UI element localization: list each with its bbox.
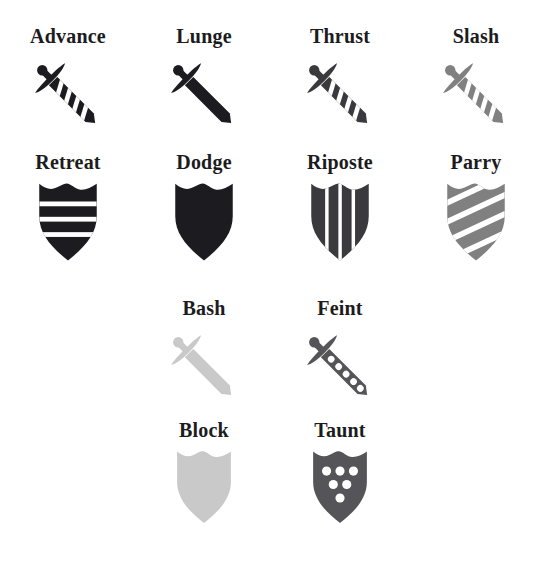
sword-solid-light-gray-icon bbox=[156, 322, 252, 414]
legend-item-label: Advance bbox=[30, 26, 106, 46]
sword-striped-dark-gray-icon bbox=[292, 50, 388, 142]
legend-item-block[interactable]: Block bbox=[136, 420, 272, 532]
legend-item-advance[interactable]: Advance bbox=[0, 26, 136, 142]
legend-row: Bash Feint bbox=[0, 298, 548, 414]
legend-row: Retreat Dodge Riposte Parry bbox=[0, 152, 548, 270]
legend-item-riposte[interactable]: Riposte bbox=[272, 152, 408, 270]
legend-item-slash[interactable]: Slash bbox=[408, 26, 544, 142]
shield-vertical-bars-dark-gray-icon bbox=[292, 178, 388, 270]
legend-row: Advance Lunge Thrust Slash bbox=[0, 26, 548, 142]
sword-striped-gray-icon bbox=[428, 50, 524, 142]
legend-row: Block Taunt bbox=[0, 420, 548, 532]
sword-dotted-mid-gray-icon bbox=[292, 322, 388, 414]
legend-item-bash[interactable]: Bash bbox=[136, 298, 272, 414]
legend-item-taunt[interactable]: Taunt bbox=[272, 420, 408, 532]
icon-legend-grid: Advance Lunge Thrust Slash Retreat Dodge… bbox=[0, 0, 548, 577]
legend-item-retreat[interactable]: Retreat bbox=[0, 152, 136, 270]
legend-item-thrust[interactable]: Thrust bbox=[272, 26, 408, 142]
legend-item-label: Parry bbox=[451, 152, 502, 172]
legend-item-label: Riposte bbox=[307, 152, 373, 172]
legend-item-label: Dodge bbox=[176, 152, 231, 172]
shield-horizontal-bars-black-icon bbox=[20, 178, 116, 270]
legend-item-label: Block bbox=[179, 420, 229, 440]
sword-striped-black-icon bbox=[20, 50, 116, 142]
legend-item-label: Taunt bbox=[314, 420, 365, 440]
shield-solid-light-gray-icon bbox=[156, 446, 252, 532]
legend-item-feint[interactable]: Feint bbox=[272, 298, 408, 414]
legend-item-parry[interactable]: Parry bbox=[408, 152, 544, 270]
legend-item-label: Thrust bbox=[310, 26, 370, 46]
legend-item-label: Lunge bbox=[176, 26, 231, 46]
legend-item-label: Retreat bbox=[35, 152, 100, 172]
shield-dotted-mid-gray-icon bbox=[292, 446, 388, 532]
legend-item-label: Bash bbox=[182, 298, 225, 318]
shield-diagonal-bars-gray-icon bbox=[428, 178, 524, 270]
shield-solid-black-icon bbox=[156, 178, 252, 270]
legend-item-dodge[interactable]: Dodge bbox=[136, 152, 272, 270]
sword-solid-black-icon bbox=[156, 50, 252, 142]
legend-item-label: Slash bbox=[453, 26, 500, 46]
legend-item-lunge[interactable]: Lunge bbox=[136, 26, 272, 142]
legend-item-label: Feint bbox=[317, 298, 362, 318]
